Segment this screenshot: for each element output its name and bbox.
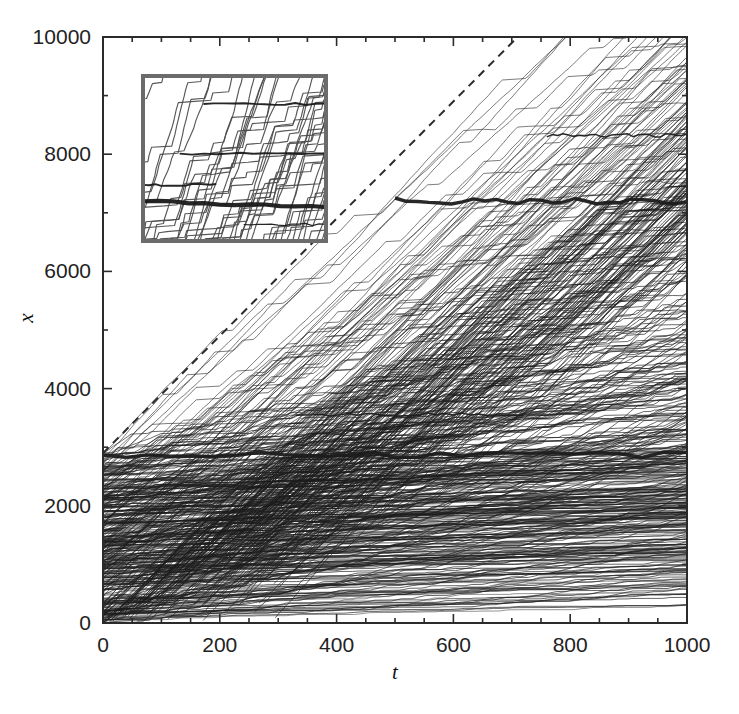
y-tick-label: 6000 <box>44 259 91 282</box>
x-tick-label: 600 <box>436 633 471 656</box>
y-tick-label: 10000 <box>33 25 91 48</box>
y-tick-label: 4000 <box>44 377 91 400</box>
x-tick-label: 800 <box>553 633 588 656</box>
x-tick-label: 400 <box>319 633 354 656</box>
y-tick-label: 0 <box>79 611 91 634</box>
y-tick-label: 8000 <box>44 142 91 165</box>
x-tick-label: 1000 <box>664 633 711 656</box>
figure-container: 020040060080010000200040006000800010000 … <box>0 0 739 714</box>
y-tick-label: 2000 <box>44 494 91 517</box>
x-tick-label: 200 <box>202 633 237 656</box>
trajectory-plot: 020040060080010000200040006000800010000 … <box>0 0 739 714</box>
x-tick-label: 0 <box>97 633 109 656</box>
y-axis-title: x <box>14 313 38 324</box>
